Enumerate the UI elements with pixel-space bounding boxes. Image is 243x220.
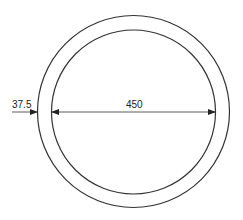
wall-thickness-label: 37.5 (12, 99, 32, 110)
diagram-canvas: 37.5 450 (0, 0, 243, 220)
ring-diagram: 37.5 450 (0, 0, 243, 220)
outer-circle (38, 16, 230, 208)
inner-diameter-label: 450 (126, 99, 143, 110)
